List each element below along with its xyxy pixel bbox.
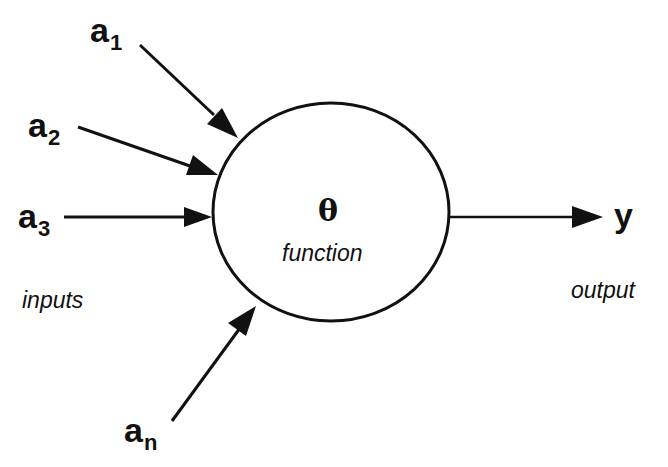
output-y-label: y [614, 198, 633, 232]
input-an-base: a [124, 411, 143, 449]
function-caption: function [282, 242, 363, 265]
input-a3-subscript: 3 [38, 216, 50, 241]
theta-symbol: θ [318, 196, 338, 226]
output-caption: output [571, 279, 635, 302]
input-an-subscript: n [144, 430, 157, 455]
input-a1-label: a1 [90, 13, 122, 47]
arrow-an [172, 306, 256, 421]
arrow-a1 [140, 45, 238, 138]
arrow-a3 [64, 207, 212, 227]
input-a2-label: a2 [28, 108, 60, 142]
input-a3-base: a [18, 197, 37, 235]
input-a1-subscript: 1 [110, 30, 122, 55]
input-a1-base: a [90, 11, 109, 49]
input-a2-subscript: 2 [48, 125, 60, 150]
input-a3-label: a3 [18, 199, 50, 233]
arrow-output [449, 206, 603, 228]
neuron-diagram [0, 0, 668, 467]
input-a2-base: a [28, 106, 47, 144]
input-an-label: an [124, 413, 157, 447]
inputs-caption: inputs [22, 289, 83, 312]
arrow-a2 [78, 127, 218, 175]
